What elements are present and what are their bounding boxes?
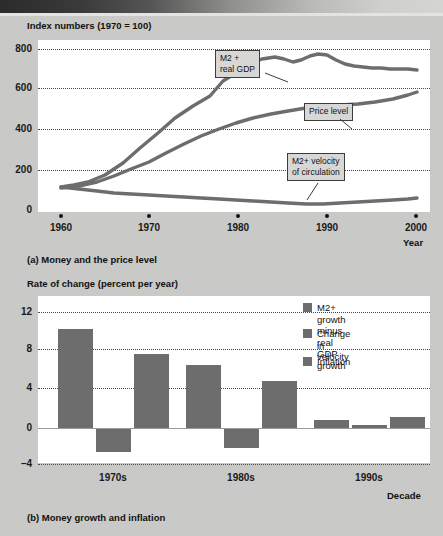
figure-page: Index numbers (1970 = 100) 800 600 400 2… — [0, 0, 443, 536]
gridline-8 — [38, 349, 430, 350]
panel-b-ytick-0: 0 — [6, 422, 32, 433]
panel-b-ytick-8: 8 — [6, 343, 32, 354]
bar-1980s-m2-growth-minus-real-gdp — [186, 365, 221, 428]
panel-b-ytick-minus4: –4 — [4, 458, 32, 469]
bar-1990s-change-in-velocity — [352, 425, 387, 428]
xdot-1980 — [236, 214, 240, 218]
panel-a-xtick-1970: 1970 — [129, 222, 169, 233]
panel-a-x-axis-label: Year — [403, 237, 423, 248]
panel-a-xtick-1990: 1990 — [307, 222, 347, 233]
bar-1990s-inflation — [390, 417, 425, 428]
panel-b-xtick-1980s: 1980s — [221, 472, 261, 483]
bar-1970s-change-in-velocity — [96, 429, 131, 452]
panel-a-money-and-price-level: Index numbers (1970 = 100) 800 600 400 2… — [0, 16, 443, 249]
panel-b-axis-title: Rate of change (percent per year) — [27, 278, 178, 289]
gridline-4 — [38, 388, 430, 389]
panel-a-xtick-2000: 2000 — [396, 222, 436, 233]
panel-b-ytick-12: 12 — [6, 306, 32, 317]
gridline-minus4 — [38, 464, 430, 465]
scan-edge-gradient — [0, 0, 443, 13]
panel-a-xtick-1980: 1980 — [218, 222, 258, 233]
legend-swatch-change-in-velocity — [303, 329, 312, 338]
legend-label-inflation: Inflation — [317, 356, 350, 367]
panel-b-money-growth-and-inflation: Rate of change (percent per year) 12 8 4… — [0, 276, 443, 536]
panel-b-ytick-4: 4 — [6, 382, 32, 393]
legend-item-inflation: Inflation — [303, 356, 350, 368]
xdot-1970 — [147, 214, 151, 218]
panel-a-caption: (a) Money and the price level — [27, 254, 157, 265]
bar-1970s-inflation — [134, 354, 169, 428]
xdot-1990 — [325, 214, 329, 218]
xdot-2000 — [414, 214, 418, 218]
callout-m2-velocity-leader — [0, 16, 443, 249]
panel-a-xtick-1960: 1960 — [41, 222, 81, 233]
legend-swatch-m2-growth — [303, 303, 312, 312]
panel-b-x-axis-label: Decade — [387, 490, 421, 501]
panel-b-caption: (b) Money growth and inflation — [27, 512, 165, 523]
legend-swatch-inflation — [303, 357, 312, 366]
xdot-1960 — [59, 214, 63, 218]
bar-1970s-m2-growth-minus-real-gdp — [58, 329, 93, 428]
bar-1980s-inflation — [262, 381, 297, 428]
bar-1990s-m2-growth-minus-real-gdp — [314, 420, 349, 428]
gridline-12 — [38, 312, 430, 313]
panel-b-xtick-1990s: 1990s — [349, 472, 389, 483]
bar-1980s-change-in-velocity — [224, 429, 259, 448]
panel-b-xtick-1970s: 1970s — [93, 472, 133, 483]
